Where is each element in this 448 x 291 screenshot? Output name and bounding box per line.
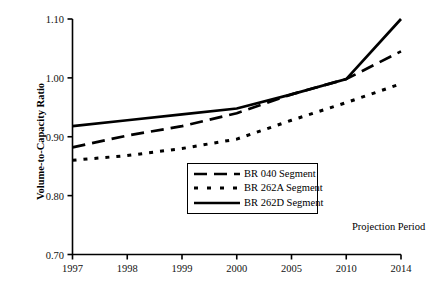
series-line-br-262d-segment [73, 19, 402, 126]
volume-to-capacity-chart: Volume-to-Capacity Ratio 1.101.000.900.8… [0, 0, 448, 291]
x-axis-tick-label: 2005 [281, 263, 302, 274]
x-axis-tick-label: 1998 [117, 263, 138, 274]
projection-period-annotation: Projection Period [352, 221, 425, 232]
chart-series-lines [73, 19, 402, 160]
legend-item-br-262d[interactable]: BR 262D Segment [193, 196, 313, 210]
legend-label-br-040: BR 040 Segment [244, 169, 316, 180]
x-axis-tick-label: 2010 [336, 263, 357, 274]
legend-label-br-262d: BR 262D Segment [244, 198, 323, 209]
y-axis-tick-label: 1.10 [28, 14, 64, 25]
legend-swatch-long-dash [193, 169, 241, 179]
y-axis-tick-label: 0.80 [28, 190, 64, 201]
y-axis-tick-label: 1.00 [28, 72, 64, 83]
x-axis-tick-label: 1997 [62, 263, 83, 274]
x-axis-tick-label: 1999 [172, 263, 193, 274]
x-axis-tick-label: 2000 [226, 263, 247, 274]
legend-item-br-040[interactable]: BR 040 Segment [193, 167, 313, 181]
y-axis-tick-label: 0.70 [28, 249, 64, 260]
y-axis-tick-label: 0.90 [28, 131, 64, 142]
legend-label-br-262a: BR 262A Segment [244, 183, 323, 194]
chart-legend[interactable]: BR 040 Segment BR 262A Segment BR 262D S… [187, 163, 318, 214]
chart-plot-area [0, 0, 448, 291]
legend-swatch-dotted [193, 183, 241, 193]
legend-item-br-262a[interactable]: BR 262A Segment [193, 181, 313, 195]
legend-swatch-solid [193, 198, 241, 208]
x-axis-tick-label: 2014 [391, 263, 412, 274]
